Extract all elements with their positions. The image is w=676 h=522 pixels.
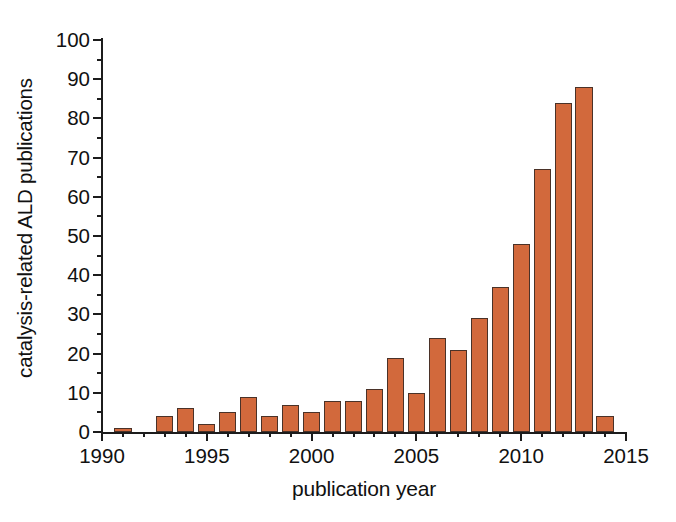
y-axis-minor-tick — [97, 176, 102, 178]
bar-chart-figure: catalysis-related ALD publications 01020… — [0, 0, 676, 522]
bar — [240, 397, 257, 432]
y-axis-major-tick — [93, 196, 102, 198]
x-axis-minor-tick — [290, 432, 292, 437]
y-axis-tick-label: 30 — [67, 304, 90, 325]
y-axis-tick-label: 0 — [79, 422, 90, 443]
x-axis-tick-label: 2010 — [498, 446, 544, 467]
y-axis-minor-tick — [97, 411, 102, 413]
y-axis-tick-label: 10 — [67, 383, 90, 404]
y-axis-minor-tick — [97, 215, 102, 217]
y-axis-major-tick — [93, 235, 102, 237]
x-axis-minor-tick — [499, 432, 501, 437]
x-axis-major-tick — [206, 432, 208, 441]
x-axis-tick-label: 2005 — [394, 446, 440, 467]
y-axis-minor-tick — [97, 333, 102, 335]
x-axis-minor-tick — [373, 432, 375, 437]
plot-area: 0102030405060708090100 19901995200020052… — [102, 40, 626, 432]
x-axis-line — [101, 432, 627, 434]
y-axis-major-tick — [93, 274, 102, 276]
y-axis-major-tick — [93, 39, 102, 41]
x-axis-tick-label: 2000 — [289, 446, 335, 467]
y-axis-major-tick — [93, 392, 102, 394]
bar — [324, 401, 341, 432]
x-axis-minor-tick — [143, 432, 145, 437]
y-axis-tick-label: 40 — [67, 265, 90, 286]
bar — [261, 416, 278, 432]
y-axis-tick-label: 50 — [67, 226, 90, 247]
bar — [345, 401, 362, 432]
y-axis-tick-label: 80 — [67, 108, 90, 129]
bar — [303, 412, 320, 432]
x-axis-major-tick — [311, 432, 313, 441]
x-axis-title: publication year — [102, 477, 626, 501]
y-axis-title: catalysis-related ALD publications — [8, 8, 42, 448]
bar — [408, 393, 425, 432]
bar — [492, 287, 509, 432]
bar — [555, 103, 572, 432]
x-axis-minor-tick — [436, 432, 438, 437]
y-axis-tick-label: 100 — [56, 30, 90, 51]
x-axis-minor-tick — [353, 432, 355, 437]
x-axis-tick-label: 2015 — [603, 446, 649, 467]
x-axis-major-tick — [101, 432, 103, 441]
bar — [156, 416, 173, 432]
x-axis-minor-tick — [457, 432, 459, 437]
x-axis-tick-label: 1995 — [184, 446, 230, 467]
x-axis-major-tick — [625, 432, 627, 441]
x-axis-minor-tick — [332, 432, 334, 437]
x-axis-minor-tick — [227, 432, 229, 437]
y-axis-tick-label: 20 — [67, 343, 90, 364]
y-axis-major-tick — [93, 313, 102, 315]
bar — [596, 416, 613, 432]
x-axis-minor-tick — [478, 432, 480, 437]
bar — [114, 428, 131, 432]
bar — [366, 389, 383, 432]
x-axis-minor-tick — [583, 432, 585, 437]
y-axis-tick-label: 60 — [67, 187, 90, 208]
x-axis-minor-tick — [269, 432, 271, 437]
bar — [513, 244, 530, 432]
bar — [534, 169, 551, 432]
y-axis-minor-tick — [97, 255, 102, 257]
bar — [282, 405, 299, 432]
x-axis-minor-tick — [604, 432, 606, 437]
x-axis-major-tick — [415, 432, 417, 441]
x-axis-minor-tick — [164, 432, 166, 437]
y-axis-major-tick — [93, 78, 102, 80]
x-axis-minor-tick — [541, 432, 543, 437]
y-axis-minor-tick — [97, 137, 102, 139]
y-axis-minor-tick — [97, 98, 102, 100]
x-axis-minor-tick — [185, 432, 187, 437]
bar — [429, 338, 446, 432]
y-axis-tick-label: 90 — [67, 69, 90, 90]
x-axis-tick-label: 1990 — [79, 446, 125, 467]
bar — [219, 412, 236, 432]
y-axis-major-tick — [93, 353, 102, 355]
bar — [177, 408, 194, 432]
x-axis-minor-tick — [394, 432, 396, 437]
y-axis-major-tick — [93, 157, 102, 159]
bar — [471, 318, 488, 432]
bar — [387, 358, 404, 432]
y-axis-minor-tick — [97, 372, 102, 374]
x-axis-minor-tick — [122, 432, 124, 437]
bar — [450, 350, 467, 432]
bar — [198, 424, 215, 432]
bar — [575, 87, 592, 432]
x-axis-minor-tick — [562, 432, 564, 437]
y-axis-tick-label: 70 — [67, 147, 90, 168]
y-axis-minor-tick — [97, 59, 102, 61]
x-axis-minor-tick — [248, 432, 250, 437]
y-axis-minor-tick — [97, 294, 102, 296]
y-axis-major-tick — [93, 117, 102, 119]
x-axis-major-tick — [520, 432, 522, 441]
